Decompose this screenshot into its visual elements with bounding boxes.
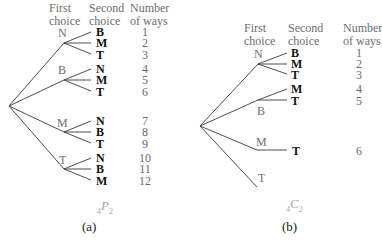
header-number-of-ways: Number of ways — [130, 2, 169, 28]
first-choice-label: T — [59, 154, 66, 166]
second-choice-label: T — [291, 95, 299, 107]
second-choice-label: T — [96, 138, 104, 150]
way-number: 12 — [135, 175, 155, 187]
first-choice-label: T — [258, 172, 265, 184]
way-number: 3 — [349, 69, 369, 81]
first-choice-label: M — [256, 136, 267, 148]
first-choice-label: N — [58, 27, 67, 39]
second-choice-label: T — [96, 86, 104, 98]
combination-symbol: 4C2 — [286, 197, 303, 214]
symbol-letter: P — [101, 198, 109, 213]
second-choice-label: T — [291, 69, 299, 81]
symbol-subscript: 2 — [109, 207, 113, 216]
permutation-symbol: 4P2 — [97, 199, 113, 216]
first-choice-label: M — [57, 117, 68, 129]
first-choice-label: B — [257, 105, 265, 117]
first-choice-label: B — [58, 64, 66, 76]
symbol-letter: C — [290, 196, 299, 211]
header-first-choice: First choice — [244, 22, 275, 48]
header-first-choice: First choice — [49, 2, 80, 28]
header-second-line2: choice — [89, 15, 124, 28]
header-second-choice: Second choice — [89, 2, 124, 28]
header-second-choice: Second choice — [288, 22, 323, 48]
second-choice-label: T — [96, 49, 104, 61]
way-number: 5 — [349, 95, 369, 107]
caption-a: (a) — [82, 220, 96, 233]
symbol-subscript: 2 — [299, 205, 303, 214]
way-number: 3 — [135, 49, 155, 61]
way-number: 6 — [349, 145, 369, 157]
way-number: 6 — [135, 86, 155, 98]
way-number: 9 — [135, 138, 155, 150]
second-choice-label: T — [292, 145, 300, 157]
second-choice-label: M — [96, 175, 107, 187]
header-number-of-ways: Number of ways — [343, 22, 382, 48]
caption-b: (b) — [282, 220, 297, 233]
first-choice-label: N — [254, 48, 263, 60]
